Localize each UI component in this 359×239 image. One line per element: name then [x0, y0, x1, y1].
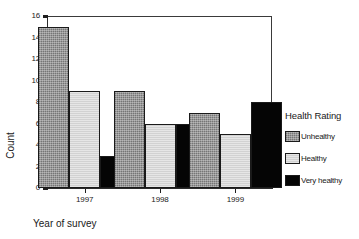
- legend-item-very-healthy[interactable]: Very healthy: [285, 174, 359, 186]
- bar-1999-healthy: [220, 134, 251, 188]
- legend-title: Health Rating: [285, 110, 359, 121]
- bar-fill: [252, 103, 281, 187]
- x-axis-title: Year of survey: [33, 218, 97, 229]
- swatch-unhealthy-icon: [285, 131, 300, 142]
- y-tick-label: 8: [14, 98, 40, 106]
- bar-1998-unhealthy: [114, 91, 145, 188]
- bar-chart: 0246810121416 199719981999 Count Year of…: [0, 0, 359, 239]
- y-tick-label: 2: [14, 163, 40, 171]
- legend: Health Rating UnhealthyHealthyVery healt…: [285, 110, 359, 196]
- y-tick-label: 12: [14, 55, 40, 63]
- x-tick-label: 1997: [62, 195, 108, 204]
- bar-1998-healthy: [145, 124, 176, 189]
- x-tick-label: 1999: [212, 195, 258, 204]
- legend-label: Unhealthy: [301, 132, 335, 141]
- bar-fill: [190, 114, 219, 187]
- bar-fill: [70, 92, 99, 187]
- y-tick-label: 10: [14, 77, 40, 85]
- y-tick-label: 6: [14, 120, 40, 128]
- bar-1999-very-healthy: [251, 102, 282, 188]
- y-tick-label: 0: [14, 184, 40, 192]
- bar-fill: [39, 28, 68, 187]
- bar-fill: [146, 125, 175, 188]
- bar-1997-unhealthy: [38, 27, 69, 188]
- legend-label: Healthy: [301, 154, 326, 163]
- legend-label: Very healthy: [301, 176, 342, 185]
- y-axis-title: Count: [5, 118, 16, 174]
- bar-fill: [115, 92, 144, 187]
- swatch-healthy-icon: [285, 153, 300, 164]
- y-tick-label: 16: [14, 12, 40, 20]
- x-tick: [235, 189, 236, 193]
- legend-items: UnhealthyHealthyVery healthy: [285, 130, 359, 186]
- bars-layer: [47, 16, 273, 188]
- legend-item-unhealthy[interactable]: Unhealthy: [285, 130, 359, 142]
- swatch-very-healthy-icon: [285, 175, 300, 186]
- x-tick: [160, 189, 161, 193]
- x-tick: [85, 189, 86, 193]
- bar-fill: [221, 135, 250, 187]
- y-tick-label: 4: [14, 141, 40, 149]
- bar-1999-unhealthy: [189, 113, 220, 188]
- bar-1997-healthy: [69, 91, 100, 188]
- legend-item-healthy[interactable]: Healthy: [285, 152, 359, 164]
- x-tick-label: 1998: [137, 195, 183, 204]
- y-tick-label: 14: [14, 34, 40, 42]
